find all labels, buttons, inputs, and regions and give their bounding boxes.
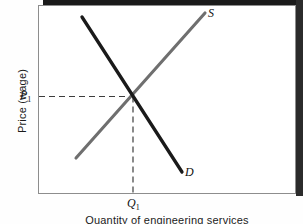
equilibrium-price-label: P1	[20, 88, 31, 104]
price-subscript: 1	[27, 95, 31, 104]
quantity-subscript: 1	[136, 203, 140, 212]
quantity-symbol: Q	[127, 196, 136, 210]
equilibrium-quantity-label: Q1	[127, 196, 140, 212]
supply-demand-figure: Price (wage) Quantity of engineering ser…	[0, 0, 303, 224]
chart-canvas	[0, 0, 303, 224]
demand-curve-label: D	[185, 165, 194, 180]
x-axis-title: Quantity of engineering services	[38, 214, 296, 224]
demand-curve	[82, 17, 182, 172]
supply-curve-label: S	[208, 6, 214, 21]
